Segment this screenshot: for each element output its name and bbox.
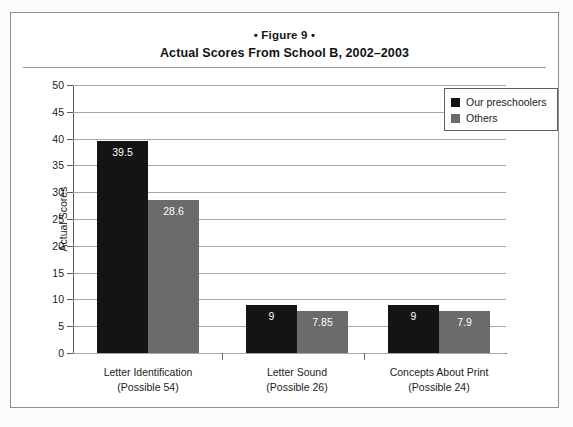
legend-label: Others — [466, 112, 498, 124]
figure-title: Actual Scores From School B, 2002–2003 — [11, 46, 558, 60]
bar-our-preschoolers: 9 — [246, 305, 297, 353]
plot-area: 50454035302520151050 39.528.697.8597.9 A… — [73, 85, 506, 353]
bar-our-preschoolers: 39.5 — [97, 141, 148, 353]
legend-label: Our preschoolers — [466, 96, 547, 108]
gridline — [73, 85, 506, 86]
figure-frame: • Figure 9 • Actual Scores From School B… — [10, 12, 559, 408]
y-axis-tick — [67, 353, 73, 354]
y-axis-tick-label: 40 — [52, 133, 64, 145]
y-axis-tick-label: 0 — [58, 347, 64, 359]
y-axis-tick-label: 45 — [52, 106, 64, 118]
category-possible-score: (Possible 26) — [218, 380, 376, 395]
y-axis-tick — [67, 165, 73, 166]
bar-value-label: 7.85 — [297, 316, 348, 328]
bar-others: 7.85 — [297, 311, 348, 353]
bar-value-label: 39.5 — [97, 146, 148, 158]
y-axis-tick — [67, 85, 73, 86]
bar-value-label: 9 — [388, 310, 439, 322]
bar-others: 7.9 — [439, 311, 490, 353]
legend-swatch-icon — [451, 114, 460, 123]
x-axis-labels: Letter Identification(Possible 54)Letter… — [73, 365, 507, 409]
figure-screenshot: • Figure 9 • Actual Scores From School B… — [0, 0, 573, 427]
y-axis-tick — [67, 273, 73, 274]
y-axis-tick — [67, 112, 73, 113]
y-axis-tick-label: 35 — [52, 159, 64, 171]
x-axis-category-label: Concepts About Print(Possible 24) — [360, 365, 518, 395]
bar-value-label: 7.9 — [439, 316, 490, 328]
bar-our-preschoolers: 9 — [388, 305, 439, 353]
y-axis-tick — [67, 299, 73, 300]
category-name: Letter Identification — [104, 366, 193, 378]
legend-item-others: Others — [451, 110, 551, 126]
y-axis-title: Actual Scores — [57, 187, 69, 252]
category-separator-tick — [364, 353, 365, 360]
y-axis-tick-label: 15 — [52, 267, 64, 279]
y-axis-tick — [67, 326, 73, 327]
bar-others: 28.6 — [148, 200, 199, 353]
bar-value-label: 9 — [246, 310, 297, 322]
figure-number: • Figure 9 • — [11, 29, 558, 41]
gridline — [73, 139, 506, 140]
bar-value-label: 28.6 — [148, 205, 199, 217]
category-separator-tick — [222, 353, 223, 360]
legend-item-our-preschoolers: Our preschoolers — [451, 94, 551, 110]
x-axis-category-label: Letter Sound(Possible 26) — [218, 365, 376, 395]
category-possible-score: (Possible 24) — [360, 380, 518, 395]
y-axis-tick-label: 50 — [52, 79, 64, 91]
chart-legend: Our preschoolers Others — [444, 88, 558, 131]
gridline — [73, 353, 506, 354]
y-axis-tick-label: 10 — [52, 293, 64, 305]
y-axis-tick-label: 5 — [58, 320, 64, 332]
legend-swatch-icon — [451, 98, 460, 107]
title-divider — [23, 67, 546, 68]
category-possible-score: (Possible 54) — [69, 380, 227, 395]
y-axis-tick — [67, 139, 73, 140]
gridline — [73, 112, 506, 113]
category-name: Letter Sound — [267, 366, 327, 378]
category-name: Concepts About Print — [390, 366, 489, 378]
x-axis-category-label: Letter Identification(Possible 54) — [69, 365, 227, 395]
